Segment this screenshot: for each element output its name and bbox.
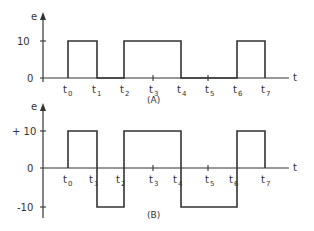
y-tick-label-10-a: 10 [17, 36, 30, 47]
t2-label-b: t [116, 174, 120, 185]
t1-label-a: t [92, 84, 96, 95]
t7-label-b: t [261, 174, 265, 185]
time-labels-a: t 0 t 1 t 2 t 3 t 4 t 5 t 6 t 7 [63, 84, 270, 98]
t2-sub-b: 2 [121, 180, 125, 188]
y-axis-label-b: e [31, 101, 37, 112]
t2-sub-a: 2 [125, 90, 129, 98]
t0-sub-a: 0 [68, 90, 72, 98]
t5-sub-b: 5 [210, 180, 214, 188]
time-labels-b: t 0 t 1 t 2 t 3 t 4 t 5 t 6 t 7 [63, 174, 270, 188]
y-tick-label-0-b: 0 [27, 163, 33, 174]
t7-sub-a: 7 [266, 90, 270, 98]
waveform-a [68, 41, 265, 78]
t7-sub-b: 7 [266, 180, 270, 188]
t7-label-a: t [261, 84, 265, 95]
y-axis-label-a: e [31, 11, 37, 22]
t1-label-b: t [89, 174, 93, 185]
t5-label-b: t [205, 174, 209, 185]
t6-sub-a: 6 [238, 90, 243, 98]
t5-label-a: t [205, 84, 209, 95]
t2-label-a: t [120, 84, 124, 95]
caption-a: (A) [147, 95, 160, 105]
t4-label-a: t [177, 84, 181, 95]
y-tick-label-minus10-b: -10 [17, 202, 33, 213]
t0-sub-b: 0 [68, 180, 72, 188]
t3-label-a: t [149, 84, 153, 95]
x-axis-label-a: t [293, 72, 297, 83]
waveform-diagram: e t 10 0 t 0 t 1 t 2 t 3 t 4 t 5 t 6 t [0, 0, 314, 231]
y-tick-label-plus10-b: + 10 [12, 126, 36, 137]
y-axis-arrow-icon [40, 103, 46, 111]
t6-label-b: t [229, 174, 233, 185]
t6-sub-b: 6 [234, 180, 239, 188]
panel-a: e t 10 0 t 0 t 1 t 2 t 3 t 4 t 5 t 6 t [17, 11, 297, 105]
panel-b: e t + 10 0 -10 t 0 t 1 t 2 t 3 t 4 t 5 t [12, 101, 297, 220]
t4-sub-b: 4 [178, 180, 183, 188]
t5-sub-a: 5 [210, 90, 214, 98]
waveform-b [68, 131, 265, 207]
t0-label-b: t [63, 174, 67, 185]
caption-b: (B) [147, 210, 160, 220]
x-axis-label-b: t [293, 162, 297, 173]
y-tick-label-0-a: 0 [27, 73, 33, 84]
t4-sub-a: 4 [182, 90, 187, 98]
t6-label-a: t [233, 84, 237, 95]
t1-sub-b: 1 [94, 180, 98, 188]
y-axis-arrow-icon [40, 12, 46, 20]
t3-label-b: t [149, 174, 153, 185]
t0-label-a: t [63, 84, 67, 95]
t3-sub-b: 3 [154, 180, 158, 188]
t4-label-b: t [173, 174, 177, 185]
t1-sub-a: 1 [97, 90, 101, 98]
